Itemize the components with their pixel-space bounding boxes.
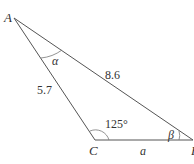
side-ac: [14, 18, 95, 140]
side-label-ac: 5.7: [37, 84, 52, 96]
angle-label-c: 125°: [105, 118, 128, 130]
side-label-cb: a: [140, 145, 146, 157]
angle-label-beta: β: [168, 129, 174, 141]
angle-label-alpha: α: [52, 55, 58, 67]
angle-arc-beta: [179, 131, 180, 140]
angle-arc-c: [90, 130, 109, 140]
side-ab: [14, 18, 193, 140]
vertex-label-b: B: [191, 144, 194, 157]
side-label-ab: 8.6: [105, 69, 120, 81]
vertex-label-a: A: [4, 11, 12, 24]
vertex-label-c: C: [89, 144, 98, 157]
triangle-diagram: [0, 0, 194, 164]
